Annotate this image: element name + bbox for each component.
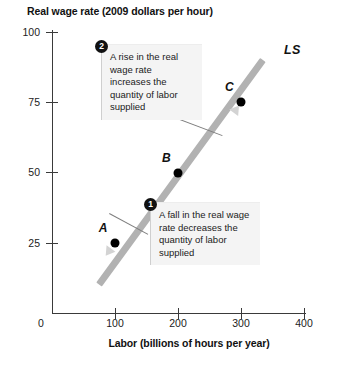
y-tick-100 [46, 32, 58, 33]
labor-supply-curve-label: LS [284, 43, 301, 57]
y-tick-25 [46, 243, 58, 244]
y-tick-label-75: 75 [6, 96, 40, 108]
x-tick-label-200: 200 [158, 317, 198, 329]
annotation-marker-2: 2 [95, 40, 108, 53]
y-tick-75 [46, 102, 58, 103]
x-tick-label-300: 300 [221, 317, 261, 329]
annotation-box-2: A rise in the real wage rate increases t… [101, 44, 202, 120]
x-tick-label-400: 400 [284, 317, 324, 329]
data-point-a-label: A [99, 221, 108, 235]
annotation-box-1: A fall in the real wage rate decreases t… [150, 202, 260, 265]
data-point-c [237, 98, 246, 107]
labor-supply-chart: Real wage rate (2009 dollars per hour) 1… [0, 0, 338, 370]
y-tick-label-25: 25 [6, 237, 40, 249]
y-tick-label-100: 100 [6, 26, 40, 38]
y-axis-title: Real wage rate (2009 dollars per hour) [27, 5, 213, 17]
data-point-b-label: B [162, 151, 171, 165]
data-point-a [111, 238, 120, 247]
y-tick-50 [46, 172, 58, 173]
data-point-b [174, 168, 183, 177]
x-tick-label-0: 0 [21, 317, 61, 329]
annotation-marker-1: 1 [144, 198, 157, 211]
data-point-c-label: C [225, 80, 234, 94]
x-tick-label-100: 100 [95, 317, 135, 329]
y-tick-label-50: 50 [6, 166, 40, 178]
x-axis-title: Labor (billions of hours per year) [0, 337, 338, 349]
